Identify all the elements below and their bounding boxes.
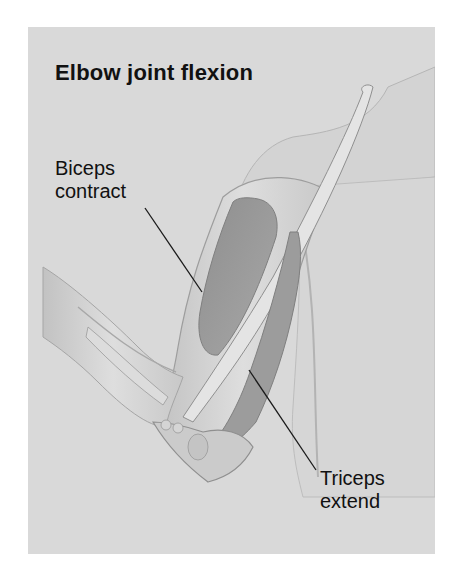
biceps-label-line2: contract <box>55 180 126 203</box>
triceps-label-line2: extend <box>320 490 385 513</box>
biceps-label: Biceps contract <box>55 157 126 203</box>
biceps-leader-line <box>145 208 202 292</box>
figure-panel: Elbow joint flexion Biceps contract Tric… <box>28 27 435 554</box>
figure-title: Elbow joint flexion <box>55 60 253 86</box>
biceps-label-line1: Biceps <box>55 157 126 180</box>
triceps-label: Triceps extend <box>320 467 385 513</box>
triceps-label-line1: Triceps <box>320 467 385 490</box>
